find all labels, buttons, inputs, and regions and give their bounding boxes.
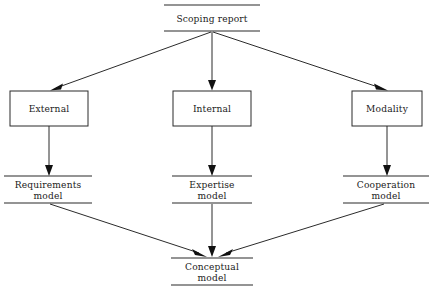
node-label-conceptual-model-line2: model (198, 273, 227, 283)
arrow-head-icon (192, 249, 207, 257)
edge-cooperation-to-conceptual (218, 204, 384, 257)
node-label-internal: Internal (193, 104, 231, 114)
edge-group (45, 32, 391, 257)
diagram-canvas: Scoping report External Internal Modalit… (0, 0, 431, 294)
node-external[interactable]: External (10, 91, 88, 126)
arrow-head-icon (208, 165, 216, 176)
node-label-expertise-model-line2: model (198, 191, 227, 201)
edge-internal-to-expertise (208, 126, 216, 176)
node-modality[interactable]: Modality (352, 91, 422, 126)
node-requirements-model[interactable]: Requirements model (4, 176, 92, 203)
arrow-head-icon (218, 249, 233, 257)
node-conceptual-model[interactable]: Conceptual model (171, 258, 253, 285)
arrow-head-icon (208, 80, 216, 91)
edge-line (56, 32, 211, 88)
node-label-cooperation-model-line2: model (372, 191, 401, 201)
arrow-head-icon (383, 165, 391, 176)
arrow-head-icon (50, 84, 63, 91)
node-label-modality: Modality (366, 104, 409, 114)
node-label-expertise-model-line1: Expertise (189, 180, 234, 190)
edge-line (50, 204, 199, 253)
node-label-scoping-report: Scoping report (176, 14, 247, 24)
arrow-head-icon (208, 246, 216, 257)
edge-line (213, 32, 381, 88)
arrow-head-icon (374, 84, 388, 91)
node-label-requirements-model-line2: model (34, 191, 63, 201)
node-label-conceptual-model-line1: Conceptual (185, 262, 239, 272)
edge-external-to-requirements (45, 126, 53, 176)
edge-scoping-to-modality (213, 32, 388, 91)
node-internal[interactable]: Internal (173, 91, 251, 126)
node-expertise-model[interactable]: Expertise model (172, 176, 252, 203)
node-cooperation-model[interactable]: Cooperation model (343, 176, 429, 203)
node-label-external: External (29, 104, 70, 114)
edge-scoping-to-internal (208, 32, 216, 91)
node-label-requirements-model-line1: Requirements (15, 180, 82, 190)
edge-modality-to-cooperation (383, 126, 391, 176)
node-scoping-report[interactable]: Scoping report (164, 5, 260, 31)
edge-line (226, 204, 384, 253)
edge-scoping-to-external (50, 32, 211, 91)
arrow-head-icon (45, 165, 53, 176)
flowchart-svg: Scoping report External Internal Modalit… (0, 0, 431, 294)
edge-expertise-to-conceptual (208, 204, 216, 257)
edge-requirements-to-conceptual (50, 204, 207, 257)
node-label-cooperation-model-line1: Cooperation (357, 180, 415, 190)
